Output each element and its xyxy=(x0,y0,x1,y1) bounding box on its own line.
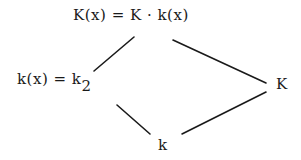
edge-top-left xyxy=(94,37,134,71)
node-top-label: K(x) = K · k(x) xyxy=(73,6,189,24)
edge-right-bottom xyxy=(182,92,266,134)
node-left-label: k(x) = k xyxy=(17,70,81,88)
node-top-formula: K(x) = K · k(x) xyxy=(73,6,189,24)
edge-top-right xyxy=(173,40,266,83)
node-right-label: K xyxy=(276,75,288,93)
node-left-subscript: 2 xyxy=(81,77,91,95)
node-bottom: k xyxy=(158,136,168,154)
node-right: K xyxy=(276,75,288,93)
edge-left-bottom xyxy=(117,105,150,134)
node-left-formula: k(x) = k2 xyxy=(17,70,92,88)
node-bottom-label: k xyxy=(158,136,168,154)
